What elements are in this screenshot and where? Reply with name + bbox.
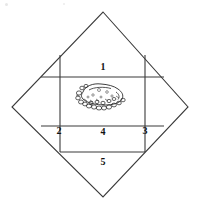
diagram-canvas: [0, 0, 201, 205]
region-label-4: 4: [96, 127, 110, 137]
scan-speck-right-icon: [63, 3, 65, 5]
region-label-2: 2: [52, 126, 66, 136]
stippled-mass-sketch: [76, 84, 126, 110]
region-label-1: 1: [96, 62, 110, 72]
region-label-3: 3: [138, 126, 152, 136]
region-label-5: 5: [96, 157, 110, 167]
scan-speck-left-icon: [5, 3, 8, 6]
sketch-inner-contour-2: [116, 92, 119, 100]
sketch-interior-dots: [87, 89, 113, 99]
figure-root: 1 2 3 4 5: [0, 0, 201, 205]
